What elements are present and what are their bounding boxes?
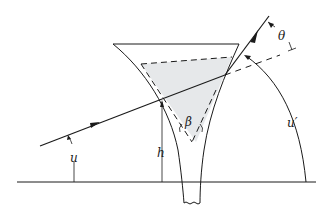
theta-arrow-icon	[268, 22, 274, 28]
emergent-ray	[225, 16, 269, 75]
label-u: u	[70, 151, 78, 165]
label-theta: θ	[278, 29, 286, 43]
shaded-region	[141, 57, 232, 142]
h-arrow-icon	[160, 100, 164, 107]
stem-break	[184, 202, 200, 204]
emergent-arrow-icon	[250, 30, 258, 43]
label-h: h	[157, 146, 165, 160]
label-beta: β	[184, 115, 192, 129]
ray-arrow-icon	[90, 122, 100, 128]
optics-diagram: u h β u′ θ	[0, 0, 329, 214]
theta-tick	[288, 42, 296, 51]
label-u-prime: u′	[287, 116, 298, 130]
incident-ray	[40, 99, 162, 146]
